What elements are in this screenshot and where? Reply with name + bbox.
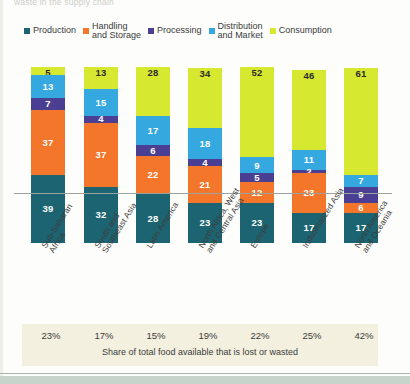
segment-value: 52 (252, 68, 263, 78)
segment-handling-and-storage: 22 (136, 156, 170, 194)
segment-value: 13 (43, 82, 54, 92)
legend-item-distribution-and-market: Distribution and Market (209, 22, 263, 41)
segment-value: 7 (45, 99, 50, 109)
legend-item-production: Production (24, 26, 76, 35)
segment-value: 28 (148, 68, 159, 78)
segment-distribution-and-market: 7 (344, 175, 378, 187)
legend-label: Consumption (279, 26, 332, 35)
share-percent-3: 15% (136, 330, 176, 341)
segment-value: 32 (96, 210, 107, 220)
segment-distribution-and-market: 18 (188, 128, 222, 159)
page-bottom-line (0, 373, 410, 374)
cut-off-header-text: waste in the supply chain (14, 0, 314, 9)
segment-value: 61 (356, 69, 367, 79)
segment-value: 7 (358, 176, 363, 186)
segment-consumption: 46 (292, 70, 326, 150)
segment-processing: 6 (136, 145, 170, 155)
legend-swatch-icon (148, 28, 154, 34)
segment-distribution-and-market: 17 (136, 116, 170, 146)
segment-consumption: 61 (344, 68, 378, 174)
segment-consumption: 52 (240, 67, 274, 158)
chart-legend: ProductionHandling and StorageProcessing… (24, 18, 394, 44)
segment-value: 11 (304, 155, 314, 165)
segment-value: 22 (148, 170, 159, 180)
segment-processing: 9 (344, 187, 378, 203)
legend-label: Production (33, 26, 76, 35)
segment-value: 13 (96, 68, 107, 78)
segment-processing: 4 (84, 116, 118, 123)
segment-processing: 5 (240, 173, 274, 182)
share-percent-5: 22% (240, 330, 280, 341)
segment-handling-and-storage: 37 (31, 110, 65, 175)
share-percent-6: 25% (292, 330, 332, 341)
segment-consumption: 13 (84, 67, 118, 90)
segment-value: 46 (304, 71, 315, 81)
legend-label: Processing (157, 26, 202, 35)
legend-swatch-icon (209, 28, 215, 34)
segment-value: 15 (96, 98, 107, 108)
segment-value: 6 (150, 146, 155, 156)
bar-5: 52951223 (240, 67, 274, 243)
share-percent-1: 23% (31, 330, 71, 341)
segment-distribution-and-market: 9 (240, 157, 274, 173)
segment-processing: 4 (188, 159, 222, 166)
share-caption-text: Share of total food available that is lo… (22, 347, 378, 357)
segment-value: 18 (200, 139, 211, 149)
share-caption-box: 23%17%15%19%22%25%42% Share of total foo… (22, 324, 378, 366)
segment-value: 37 (43, 138, 54, 148)
segment-value: 17 (148, 126, 159, 136)
legend-label: Distribution and Market (218, 22, 263, 41)
share-percent-row: 23%17%15%19%22%25%42% (22, 330, 378, 344)
page-bottom-band (0, 376, 410, 384)
share-percent-4: 19% (188, 330, 228, 341)
x-axis-labels: Sub-Saharan AfricaSouth and Southeast As… (0, 245, 410, 317)
segment-value: 34 (200, 69, 211, 79)
segment-handling-and-storage: 37 (84, 123, 118, 188)
segment-value: 6 (358, 203, 363, 213)
segment-value: 39 (43, 204, 54, 214)
segment-value: 21 (200, 180, 211, 190)
segment-consumption: 28 (136, 67, 170, 116)
chart-page: waste in the supply chain ProductionHand… (0, 0, 410, 384)
segment-value: 9 (254, 161, 259, 171)
segment-processing: 7 (31, 98, 65, 110)
segment-consumption: 5 (31, 67, 65, 76)
segment-consumption: 34 (188, 68, 222, 127)
segment-value: 37 (96, 150, 107, 160)
page-left-edge (0, 0, 3, 376)
legend-swatch-icon (83, 28, 89, 34)
legend-label: Handling and Storage (92, 22, 141, 41)
segment-value: 9 (358, 190, 363, 200)
legend-swatch-icon (24, 28, 30, 34)
segment-distribution-and-market: 13 (31, 75, 65, 98)
legend-item-handling-and-storage: Handling and Storage (83, 22, 141, 41)
legend-swatch-icon (270, 28, 276, 34)
legend-item-consumption: Consumption (270, 26, 332, 35)
share-percent-7: 42% (344, 330, 384, 341)
segment-distribution-and-market: 15 (84, 89, 118, 115)
legend-item-processing: Processing (148, 26, 202, 35)
segment-value: 5 (254, 173, 259, 183)
segment-handling-and-storage: 21 (188, 166, 222, 203)
share-percent-2: 17% (84, 330, 124, 341)
